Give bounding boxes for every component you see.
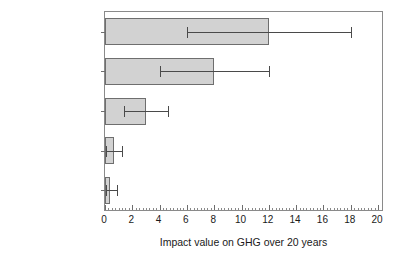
y-axis-tick xyxy=(101,151,105,152)
x-axis-minor-tick xyxy=(337,208,338,211)
x-axis-tick-label-8: 16 xyxy=(307,214,337,226)
y-axis-tick xyxy=(101,190,105,191)
x-axis-minor-tick xyxy=(289,208,290,211)
x-axis-minor-tick xyxy=(194,208,195,211)
x-axis-minor-tick xyxy=(207,208,208,211)
x-axis-minor-tick xyxy=(276,208,277,211)
x-axis-minor-tick xyxy=(317,208,318,211)
x-axis-minor-tick xyxy=(211,208,212,211)
x-axis-tick-label-9: 18 xyxy=(335,214,365,226)
x-axis-minor-tick xyxy=(354,208,355,211)
x-axis-minor-tick xyxy=(344,208,345,211)
x-axis-minor-tick xyxy=(262,208,263,211)
x-axis-minor-tick xyxy=(300,208,301,211)
x-axis-minor-tick xyxy=(320,208,321,211)
x-axis-minor-tick xyxy=(163,208,164,211)
error-bar-line xyxy=(187,32,351,33)
x-axis-minor-tick xyxy=(286,208,287,211)
x-axis-minor-tick xyxy=(119,208,120,211)
x-axis-minor-tick xyxy=(259,208,260,211)
x-axis-minor-tick xyxy=(231,208,232,211)
x-axis-minor-tick xyxy=(306,208,307,211)
x-axis-tick-label-10: 20 xyxy=(362,214,392,226)
x-axis-minor-tick xyxy=(364,208,365,211)
x-axis-minor-tick xyxy=(279,208,280,211)
x-axis-minor-tick xyxy=(136,208,137,211)
error-bar-line xyxy=(106,190,118,191)
x-axis-minor-tick xyxy=(255,208,256,211)
x-axis-minor-tick xyxy=(347,208,348,211)
x-axis-minor-tick xyxy=(122,208,123,211)
x-axis-minor-tick xyxy=(368,208,369,211)
x-axis-tick-label-5: 10 xyxy=(226,214,256,226)
x-axis-minor-tick xyxy=(112,208,113,211)
x-axis-minor-tick xyxy=(330,208,331,211)
error-bar-cap-high xyxy=(122,146,123,157)
x-axis-minor-tick xyxy=(228,208,229,211)
x-axis-minor-tick xyxy=(224,208,225,211)
error-bar-line xyxy=(160,71,269,72)
error-bar-cap-high xyxy=(269,66,270,77)
x-axis-minor-tick xyxy=(146,208,147,211)
error-bar-line xyxy=(124,111,168,112)
x-axis-minor-tick xyxy=(303,208,304,211)
x-axis-major-tick xyxy=(378,205,379,210)
x-axis-tick-label-7: 14 xyxy=(280,214,310,226)
error-bar-cap-low xyxy=(106,185,107,196)
x-axis-minor-tick xyxy=(221,208,222,211)
x-axis-major-tick xyxy=(160,205,161,210)
x-axis-minor-tick xyxy=(183,208,184,211)
x-axis-minor-tick xyxy=(245,208,246,211)
x-axis-tick-label-4: 8 xyxy=(198,214,228,226)
figure: CO2 to fuelsCO2 to olefinsCO2 polymersCO… xyxy=(0,0,394,263)
error-bar-cap-low xyxy=(124,106,125,117)
y-axis-tick xyxy=(101,111,105,112)
x-axis-minor-tick xyxy=(143,208,144,211)
x-axis-tick-label-3: 6 xyxy=(171,214,201,226)
x-axis-title: Impact value on GHG over 20 years xyxy=(104,236,383,248)
x-axis-minor-tick xyxy=(340,208,341,211)
x-axis-minor-tick xyxy=(180,208,181,211)
x-axis-minor-tick xyxy=(238,208,239,211)
x-axis-minor-tick xyxy=(115,208,116,211)
x-axis-major-tick xyxy=(242,205,243,210)
plot-area xyxy=(105,12,382,210)
plot-frame xyxy=(104,11,383,211)
x-axis-minor-tick xyxy=(293,208,294,211)
x-axis-minor-tick xyxy=(310,208,311,211)
x-axis-tick-label-6: 12 xyxy=(253,214,283,226)
x-axis-minor-tick xyxy=(375,208,376,211)
x-axis-minor-tick xyxy=(371,208,372,211)
x-axis-tick-label-2: 4 xyxy=(144,214,174,226)
x-axis-minor-tick xyxy=(197,208,198,211)
x-axis-minor-tick xyxy=(204,208,205,211)
error-bar-cap-high xyxy=(351,27,352,38)
x-axis-minor-tick xyxy=(334,208,335,211)
x-axis-minor-tick xyxy=(170,208,171,211)
x-axis-minor-tick xyxy=(218,208,219,211)
x-axis-major-tick xyxy=(105,205,106,210)
y-axis-tick xyxy=(101,71,105,72)
x-axis-minor-tick xyxy=(252,208,253,211)
x-axis-minor-tick xyxy=(108,208,109,211)
x-axis-tick-label-0: 0 xyxy=(89,214,119,226)
x-axis-minor-tick xyxy=(166,208,167,211)
x-axis-major-tick xyxy=(132,205,133,210)
x-axis-minor-tick xyxy=(358,208,359,211)
x-axis-minor-tick xyxy=(313,208,314,211)
x-axis-minor-tick xyxy=(265,208,266,211)
x-axis-major-tick xyxy=(187,205,188,210)
x-axis-minor-tick xyxy=(153,208,154,211)
x-axis-major-tick xyxy=(214,205,215,210)
x-axis-major-tick xyxy=(296,205,297,210)
error-bar-cap-high xyxy=(117,185,118,196)
x-axis-minor-tick xyxy=(156,208,157,211)
x-axis-minor-tick xyxy=(235,208,236,211)
error-bar-cap-low xyxy=(187,27,188,38)
error-bar-cap-low xyxy=(160,66,161,77)
x-axis-tick-label-1: 2 xyxy=(116,214,146,226)
y-axis-tick xyxy=(101,32,105,33)
x-axis-minor-tick xyxy=(327,208,328,211)
x-axis-minor-tick xyxy=(361,208,362,211)
x-axis-minor-tick xyxy=(129,208,130,211)
